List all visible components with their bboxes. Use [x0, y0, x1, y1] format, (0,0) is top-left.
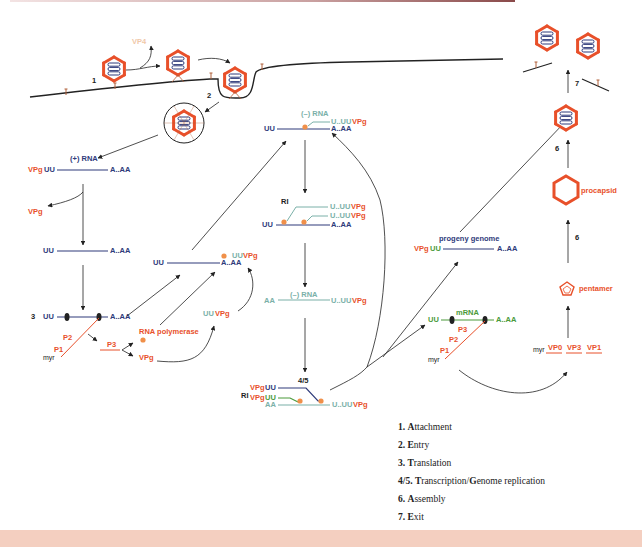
polymerase-icon	[140, 337, 145, 342]
uu-label: UU	[265, 383, 276, 392]
uu-label: UU	[428, 315, 439, 324]
polymerase-icon	[301, 219, 306, 224]
legend-item-transcription-replication: 4/5. Transcription/Genome replication	[398, 472, 545, 490]
vpg-label: VPg	[351, 202, 366, 211]
progeny-genome-label: progeny genome	[439, 234, 499, 243]
polya-label: A..AA	[110, 246, 131, 255]
mrna-strand	[278, 398, 298, 402]
minus-rna-label: (–) RNA	[301, 109, 329, 118]
polymerase-icon	[297, 398, 302, 403]
minus-strand-rna	[307, 216, 328, 221]
uu-label: UU	[44, 165, 55, 174]
legend-item-assembly: 6. Assembly	[398, 490, 545, 508]
legend-item-translation: 3. Translation	[398, 454, 545, 472]
bottom-band	[0, 530, 642, 547]
legend-item-entry: 2. Entry	[398, 436, 545, 454]
released-vpg-label: VPg	[28, 207, 43, 216]
uu-label: UU	[203, 309, 214, 318]
ri-label: RI	[241, 391, 249, 400]
aa-label: AA	[265, 400, 276, 409]
step-3-label: 3	[31, 312, 35, 321]
ribosome-icon	[450, 316, 455, 324]
uu-label: UU	[43, 312, 54, 321]
uu-label: UU	[430, 244, 441, 253]
polya-label: A..AA	[496, 315, 517, 324]
arrow	[122, 350, 133, 356]
arrow	[48, 192, 83, 206]
u-uu-label: U..UU	[332, 400, 352, 409]
arrow	[205, 102, 219, 112]
vpg-label: VPg	[352, 296, 367, 305]
legend-item-attachment: 1. Attachment	[398, 418, 545, 436]
arrow	[459, 370, 567, 393]
virion-bound	[166, 50, 190, 82]
arrow	[192, 141, 286, 250]
minus-strand-rna	[308, 122, 330, 126]
aa-label: AA	[264, 296, 275, 305]
vp0-label: VP0	[548, 343, 562, 352]
pentamer-label: pentamer	[579, 284, 613, 293]
polya-label: A..AA	[110, 165, 131, 174]
arrow	[330, 133, 385, 390]
vpg-label: VPg	[353, 400, 368, 409]
arrow	[126, 66, 160, 70]
p3-label: P3	[107, 340, 116, 349]
vpg-label: VPg	[414, 244, 429, 253]
legend-item-exit: 7. Exit	[398, 508, 545, 526]
vp1-label: VP1	[587, 343, 601, 352]
polymerase-icon	[281, 219, 286, 224]
vpg-label: VPg	[243, 251, 258, 260]
mrna-label: mRNA	[456, 308, 480, 317]
mature-virion	[554, 105, 578, 132]
p2-label: P2	[449, 335, 458, 344]
arrow	[127, 275, 180, 316]
myr-label: myr	[533, 346, 545, 354]
vpg-protein-label: VPg	[139, 353, 154, 362]
polymerase-icon	[318, 398, 323, 403]
vpg-label: VPg	[215, 309, 230, 318]
released-virion	[535, 25, 559, 52]
myr-label: myr	[43, 354, 55, 362]
p1-label: P1	[54, 345, 63, 354]
step-7-label: 7	[575, 79, 579, 88]
vpg-label: VPg	[250, 383, 265, 392]
uu-label: UU	[262, 220, 273, 229]
arrow	[460, 122, 565, 232]
step-45-label: 4/5	[298, 376, 308, 385]
rna-polymerase-label: RNA polymerase	[139, 327, 199, 336]
u-uu-label: U..UU	[331, 296, 351, 305]
procapsid-icon	[554, 176, 578, 204]
arrow	[122, 343, 133, 350]
polymerase-icon	[302, 124, 307, 129]
step-6-label: 6	[575, 233, 579, 242]
vpg-label: VPg	[28, 165, 43, 174]
polya-label: A..AA	[331, 220, 352, 229]
ri-label: RI	[281, 197, 289, 206]
uu-label: UU	[232, 251, 243, 260]
uu-label: UU	[153, 258, 164, 267]
plus-rna-label: (+) RNA	[70, 154, 98, 163]
endosome-virion	[164, 103, 204, 143]
polymerase-icon	[221, 253, 226, 258]
ribosome-icon	[65, 313, 70, 321]
p3-label: P3	[458, 325, 467, 334]
minus-strand-rna	[287, 207, 328, 221]
arrow	[367, 325, 425, 367]
vp4-label: VP4	[132, 37, 147, 46]
picornavirus-lifecycle-diagram: VP4 1 2 (+) RNA VPg UU A..AA VPg UU A..A…	[0, 0, 642, 547]
vp3-label: VP3	[567, 343, 581, 352]
u-uu-label: U..UU	[330, 202, 350, 211]
step-legend: 1. Attachment 2. Entry 3. Translation 4/…	[398, 418, 545, 526]
arrow	[198, 58, 230, 63]
arrow	[88, 334, 97, 341]
p2-label: P2	[63, 333, 72, 342]
vpg-label: VPg	[351, 211, 366, 220]
uu-label: UU	[43, 246, 54, 255]
arrow	[98, 135, 158, 158]
myr-label: myr	[428, 356, 440, 364]
uu-label: UU	[264, 124, 275, 133]
u-uu-label: U..UU	[330, 211, 350, 220]
arrow	[238, 268, 253, 311]
p1-label: P1	[440, 346, 449, 355]
vpg-label: VPg	[250, 393, 265, 402]
